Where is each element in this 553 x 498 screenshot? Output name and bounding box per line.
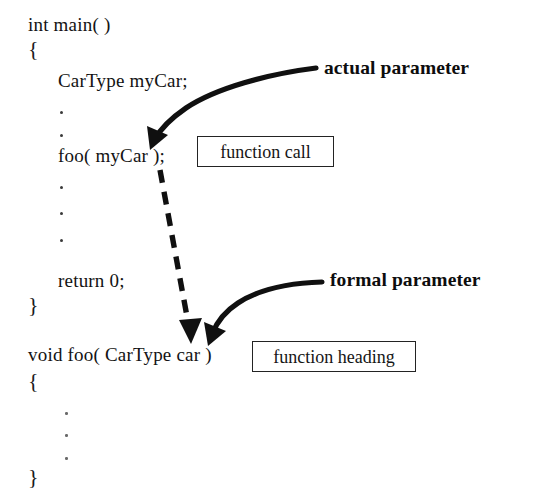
ellipsis-dot <box>60 134 63 137</box>
ellipsis-dot <box>65 434 68 437</box>
code-brace-foo-close: } <box>28 466 39 488</box>
code-brace-main-open: { <box>28 38 39 60</box>
ellipsis-dot <box>65 412 68 415</box>
formal-parameter-arrow <box>204 282 322 346</box>
code-brace-main-close: } <box>28 294 39 316</box>
code-line-main-signature: int main( ) <box>28 15 110 34</box>
code-line-foo-heading: void foo( CarType car ) <box>28 345 212 364</box>
code-line-function-call: foo( myCar ); <box>58 146 165 165</box>
annotation-box-function-call-label: function call <box>220 143 310 161</box>
ellipsis-dot <box>60 186 63 189</box>
ellipsis-dot <box>60 212 63 215</box>
parameter-passing-arrow <box>160 170 202 344</box>
ellipsis-dot <box>65 457 68 460</box>
callout-label-formal-parameter: formal parameter <box>330 270 481 290</box>
ellipsis-dot <box>60 111 63 114</box>
annotation-box-function-call: function call <box>197 136 334 167</box>
code-line-declaration: CarType myCar; <box>58 71 188 90</box>
code-line-return: return 0; <box>58 271 125 290</box>
callout-label-actual-parameter: actual parameter <box>324 58 469 78</box>
diagram-canvas: int main( ) { CarType myCar; foo( myCar … <box>0 0 553 498</box>
annotation-box-function-heading: function heading <box>252 341 416 372</box>
annotation-box-function-heading-label: function heading <box>273 348 394 366</box>
code-brace-foo-open: { <box>28 370 39 392</box>
ellipsis-dot <box>60 239 63 242</box>
